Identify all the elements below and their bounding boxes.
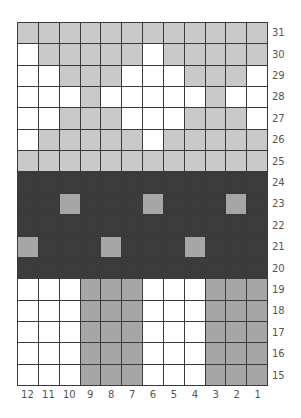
chart-cell — [143, 237, 163, 257]
row-label: 19 — [272, 279, 298, 300]
chart-cell — [101, 258, 121, 278]
chart-cell — [18, 87, 38, 107]
chart-cell — [185, 301, 205, 321]
chart-cell — [81, 301, 101, 321]
chart-cell — [18, 130, 38, 150]
row-label: 18 — [272, 300, 298, 321]
chart-cell — [122, 301, 142, 321]
chart-cell — [247, 194, 267, 214]
chart-cell — [81, 279, 101, 299]
chart-cell — [60, 130, 80, 150]
chart-cell — [18, 44, 38, 64]
chart-cell — [185, 108, 205, 128]
chart-cell — [206, 172, 226, 192]
chart-cell — [226, 215, 246, 235]
row-label: 15 — [272, 365, 298, 386]
chart-cell — [81, 258, 101, 278]
chart-cell — [122, 258, 142, 278]
chart-cell — [60, 151, 80, 171]
chart-cell — [143, 172, 163, 192]
chart-cell — [185, 66, 205, 86]
chart-cell — [164, 322, 184, 342]
chart-cell — [226, 237, 246, 257]
chart-cell — [247, 151, 267, 171]
chart-cell — [206, 365, 226, 385]
chart-cell — [122, 130, 142, 150]
row-label: 29 — [272, 65, 298, 86]
chart-cell — [247, 130, 267, 150]
chart-cell — [226, 87, 246, 107]
chart-cell — [164, 108, 184, 128]
row-label: 24 — [272, 172, 298, 193]
chart-cell — [122, 279, 142, 299]
chart-cell — [81, 343, 101, 363]
chart-cell — [226, 365, 246, 385]
chart-cell — [81, 23, 101, 43]
chart-cell — [247, 258, 267, 278]
chart-cell — [226, 322, 246, 342]
chart-cell — [60, 194, 80, 214]
row-label: 27 — [272, 108, 298, 129]
chart-cell — [206, 44, 226, 64]
chart-cell — [206, 237, 226, 257]
chart-cell — [18, 279, 38, 299]
chart-cell — [247, 215, 267, 235]
chart-cell — [101, 66, 121, 86]
chart-cell — [39, 87, 59, 107]
column-label: 6 — [143, 389, 164, 403]
row-label: 22 — [272, 215, 298, 236]
chart-cell — [206, 23, 226, 43]
chart-cell — [122, 194, 142, 214]
chart-cell — [101, 172, 121, 192]
column-label: 3 — [205, 389, 226, 403]
column-label: 7 — [122, 389, 143, 403]
chart-cell — [164, 258, 184, 278]
chart-cell — [185, 44, 205, 64]
chart-cell — [60, 365, 80, 385]
chart-cell — [143, 322, 163, 342]
chart-cell — [18, 108, 38, 128]
chart-cell — [18, 23, 38, 43]
chart-cell — [164, 172, 184, 192]
chart-cell — [18, 237, 38, 257]
chart-cell — [185, 130, 205, 150]
chart-cell — [39, 215, 59, 235]
chart-cell — [247, 322, 267, 342]
row-label: 16 — [272, 343, 298, 364]
chart-cell — [164, 23, 184, 43]
chart-cell — [185, 215, 205, 235]
chart-cell — [122, 322, 142, 342]
chart-cell — [81, 66, 101, 86]
chart-cell — [39, 365, 59, 385]
chart-cell — [226, 130, 246, 150]
chart-cell — [39, 108, 59, 128]
chart-cell — [164, 365, 184, 385]
chart-cell — [206, 322, 226, 342]
column-label: 1 — [247, 389, 268, 403]
chart-cell — [206, 279, 226, 299]
chart-cell — [81, 151, 101, 171]
chart-cell — [143, 215, 163, 235]
chart-cell — [101, 194, 121, 214]
chart-cell — [60, 108, 80, 128]
chart-cell — [226, 66, 246, 86]
chart-cell — [143, 301, 163, 321]
chart-cell — [101, 87, 121, 107]
chart-cell — [122, 237, 142, 257]
chart-cell — [247, 44, 267, 64]
chart-cell — [60, 301, 80, 321]
column-label: 11 — [38, 389, 59, 403]
chart-cell — [18, 322, 38, 342]
chart-cell — [39, 44, 59, 64]
chart-cell — [18, 172, 38, 192]
chart-cell — [164, 301, 184, 321]
row-label: 23 — [272, 193, 298, 214]
chart-cell — [122, 23, 142, 43]
chart-cell — [101, 215, 121, 235]
chart-cell — [185, 87, 205, 107]
chart-cell — [206, 343, 226, 363]
chart-cell — [185, 172, 205, 192]
chart-cell — [18, 151, 38, 171]
chart-cell — [143, 23, 163, 43]
chart-cell — [185, 322, 205, 342]
